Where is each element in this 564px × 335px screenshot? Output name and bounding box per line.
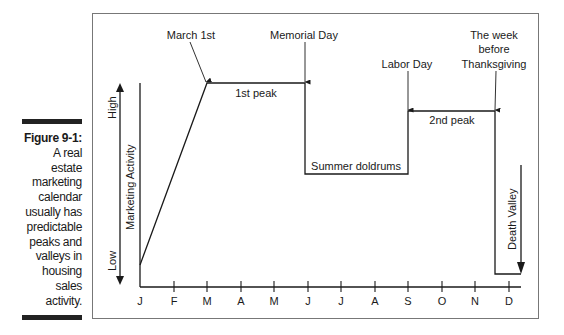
month-label: A	[237, 295, 245, 307]
annotation-arrows	[190, 42, 496, 110]
x-axis-month-labels: J F M A M J J A S O N D	[137, 295, 513, 307]
memorial-day-label: Memorial Day	[270, 29, 338, 41]
summer-doldrums-label: Summer doldrums	[311, 160, 401, 172]
labor-day-label: Labor Day	[382, 58, 433, 70]
y-axis-title: Marketing Activity	[124, 144, 136, 230]
thanksgiving-pointer	[495, 71, 496, 110]
death-valley-arrow	[517, 165, 525, 274]
thanksgiving-label-line-2: before	[478, 43, 509, 55]
arrow-down-icon	[116, 276, 124, 285]
month-label: F	[171, 295, 178, 307]
month-label: D	[505, 295, 513, 307]
y-axis-low-label: Low	[106, 251, 118, 271]
month-label: M	[202, 295, 211, 307]
thanksgiving-label-line-1: The week	[470, 29, 518, 41]
arrow-up-icon	[116, 83, 124, 92]
month-label: M	[269, 295, 278, 307]
month-label: A	[371, 295, 379, 307]
march-1st-pointer	[190, 42, 206, 82]
month-label: S	[404, 295, 411, 307]
marketing-calendar-diagram: High Low Marketing Activity J F M A M J …	[0, 0, 564, 335]
activity-line	[140, 83, 521, 274]
second-peak-label: 2nd peak	[429, 114, 475, 126]
death-valley-label: Death Valley	[506, 188, 518, 250]
thanksgiving-label-line-3: Thanksgiving	[462, 58, 527, 70]
month-label: J	[338, 295, 344, 307]
arrow-down-icon	[517, 262, 525, 274]
month-label: O	[438, 295, 447, 307]
month-label: J	[137, 295, 143, 307]
month-label: J	[305, 295, 311, 307]
month-label: N	[471, 295, 479, 307]
march-1st-label: March 1st	[167, 29, 215, 41]
y-axis-high-label: High	[106, 96, 118, 119]
first-peak-label: 1st peak	[235, 87, 277, 99]
